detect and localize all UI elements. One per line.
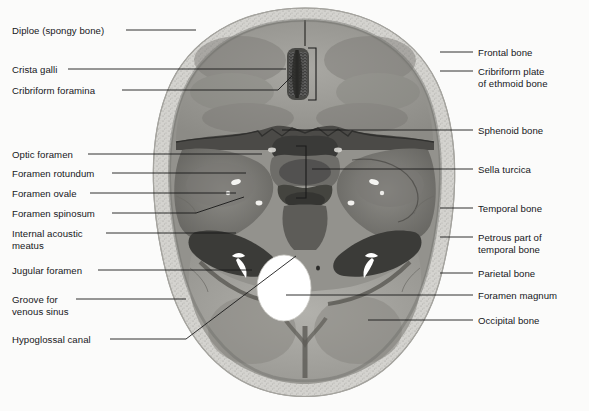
optic-foramen-right-aperture (334, 148, 342, 153)
skull-base-specimen (153, 8, 454, 397)
clivus (282, 205, 327, 251)
cerebellar-fossa-right (314, 296, 402, 364)
label-petrous-part: Petrous part of temporal bone (478, 232, 542, 255)
label-optic-foramen: Optic foramen (12, 149, 73, 161)
label-cribriform-foramina: Cribriform foramina (12, 85, 95, 97)
cribriform-plate-region (287, 48, 309, 100)
label-crista-galli: Crista galli (12, 64, 57, 76)
label-hypoglossal-canal: Hypoglossal canal (12, 334, 91, 346)
label-foramen-spinosum: Foramen spinosum (12, 208, 95, 220)
label-internal-acoustic-meatus: Internal acoustic meatus (12, 228, 83, 251)
greater-wing-right (356, 163, 424, 207)
hypoglossal-canal-right (316, 265, 320, 270)
label-occipital-bone: Occipital bone (478, 315, 540, 327)
label-frontal-bone: Frontal bone (478, 47, 532, 59)
label-foramen-ovale: Foramen ovale (12, 188, 77, 200)
label-temporal-bone: Temporal bone (478, 203, 542, 215)
foramen-rotundum-right-aperture (348, 201, 355, 206)
foramen-rotundum-left-aperture (256, 201, 263, 206)
label-groove-venous-sinus: Groove for venous sinus (12, 294, 69, 317)
label-jugular-foramen: Jugular foramen (12, 265, 82, 277)
label-foramen-magnum: Foramen magnum (478, 290, 557, 302)
label-foramen-rotundum: Foramen rotundum (12, 168, 94, 180)
label-parietal-bone: Parietal bone (478, 268, 535, 280)
greater-wing-left (186, 163, 254, 207)
label-sella-turcica: Sella turcica (478, 164, 531, 176)
label-diploe: Diploe (spongy bone) (12, 25, 104, 37)
label-cribriform-plate: Cribriform plate of ethmoid bone (478, 66, 548, 89)
foramen-spinosum-right-aperture (380, 191, 384, 195)
optic-foramen-left-aperture (268, 148, 276, 153)
label-sphenoid-bone: Sphenoid bone (478, 125, 543, 137)
